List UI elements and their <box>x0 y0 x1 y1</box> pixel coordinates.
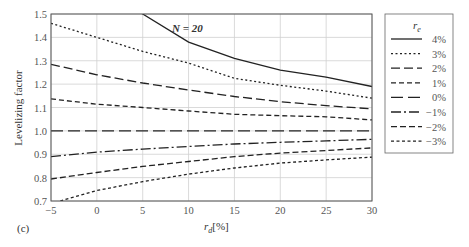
x-axis-label: rd[%] <box>204 220 229 235</box>
data-series <box>51 0 372 201</box>
y-tick-label: 1.1 <box>34 103 47 114</box>
x-tick-label: 5 <box>140 205 145 216</box>
chart-title-text: N = 20 <box>171 22 203 34</box>
x-tick-label: −5 <box>45 205 56 216</box>
legend-label: −1% <box>426 107 446 118</box>
legend-label: 1% <box>432 78 446 89</box>
y-tick-label: 1.0 <box>34 126 47 137</box>
x-tick-label: 10 <box>183 205 194 216</box>
x-tick-label: 20 <box>275 205 286 216</box>
legend: re 4%3%2%1%0%−1%−2%−3% <box>385 14 453 153</box>
series-line <box>51 99 372 120</box>
y-tick-label: 1.5 <box>34 9 47 20</box>
legend-label: −3% <box>426 136 446 147</box>
series-line <box>51 148 372 179</box>
x-tick-label: 25 <box>321 205 332 216</box>
y-tick-label: 0.9 <box>34 149 47 160</box>
chart-title: N = 20 <box>171 22 203 34</box>
legend-label: −2% <box>426 122 446 133</box>
y-tick-label: 1.3 <box>34 56 47 67</box>
legend-label: 3% <box>432 49 446 60</box>
legend-title-sub: e <box>417 25 421 34</box>
series-line <box>60 157 372 201</box>
y-axis-label: Levelizing factor <box>12 70 24 146</box>
legend-label: 4% <box>432 34 446 45</box>
x-axis-ticks: −5051015202530 <box>45 205 377 216</box>
y-axis-ticks: 0.70.80.91.01.11.21.31.41.5 <box>34 9 48 207</box>
y-tick-label: 0.8 <box>34 173 47 184</box>
x-tick-label: 15 <box>229 205 240 216</box>
x-axis-label-unit: [%] <box>212 220 229 232</box>
y-tick-label: 1.2 <box>34 79 47 90</box>
series-line <box>120 0 372 87</box>
panel-label: (c) <box>17 222 30 235</box>
legend-label: 2% <box>432 63 446 74</box>
levelizing-factor-chart: 0.70.80.91.01.11.21.31.41.5 −50510152025… <box>0 0 469 247</box>
grid-lines <box>51 14 372 201</box>
x-tick-label: 0 <box>94 205 99 216</box>
legend-label: 0% <box>432 92 446 103</box>
x-tick-label: 30 <box>367 205 378 216</box>
y-tick-label: 1.4 <box>34 32 48 43</box>
